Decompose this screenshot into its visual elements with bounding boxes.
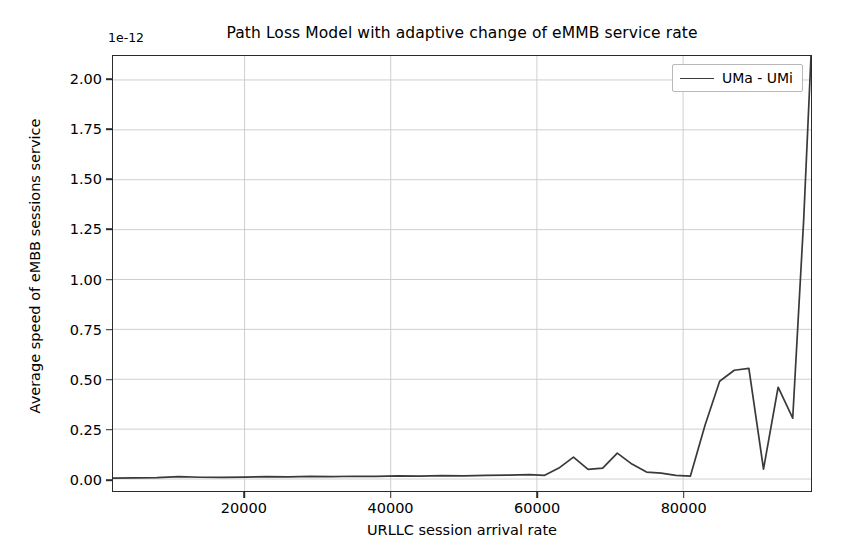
y-tick-mark [106, 429, 112, 431]
y-axis-offset-text: 1e-12 [108, 30, 144, 45]
x-tick-mark [536, 492, 538, 498]
y-tick-label: 1.50 [70, 171, 102, 187]
y-tick-label: 1.75 [70, 121, 102, 137]
y-tick-mark [106, 78, 112, 80]
chart-title: Path Loss Model with adaptive change of … [112, 24, 812, 42]
y-tick-label: 0.00 [70, 472, 102, 488]
y-tick-label: 0.75 [70, 322, 102, 338]
y-axis-tick-marks [112, 55, 113, 492]
y-tick-mark [106, 229, 112, 231]
y-axis-label: Average speed of eMBB sessions service [27, 46, 43, 486]
y-tick-mark [106, 279, 112, 281]
chart-figure: Path Loss Model with adaptive change of … [0, 0, 843, 557]
x-axis-label: URLLC session arrival rate [112, 522, 812, 538]
y-tick-mark [106, 379, 112, 381]
x-axis-tick-labels: 20000400006000080000 [112, 500, 812, 522]
x-tick-label: 80000 [661, 500, 707, 516]
data-lines [113, 56, 811, 491]
y-tick-mark [106, 329, 112, 331]
x-tick-label: 20000 [221, 500, 267, 516]
x-tick-label: 60000 [514, 500, 560, 516]
y-tick-label: 2.00 [70, 71, 102, 87]
legend-label-uma-umi: UMa - UMi [722, 70, 793, 86]
y-tick-mark [106, 479, 112, 481]
y-tick-mark [106, 178, 112, 180]
legend-line-swatch [680, 78, 714, 79]
x-tick-mark [243, 492, 245, 498]
x-tick-mark [683, 492, 685, 498]
y-tick-label: 0.25 [70, 422, 102, 438]
y-tick-label: 1.25 [70, 221, 102, 237]
plot-area: UMa - UMi [112, 55, 812, 492]
y-tick-mark [106, 128, 112, 130]
chart-legend[interactable]: UMa - UMi [672, 64, 803, 92]
x-tick-mark [390, 492, 392, 498]
y-tick-label: 1.00 [70, 272, 102, 288]
x-axis-tick-marks [112, 492, 812, 498]
y-tick-label: 0.50 [70, 372, 102, 388]
x-tick-label: 40000 [367, 500, 413, 516]
